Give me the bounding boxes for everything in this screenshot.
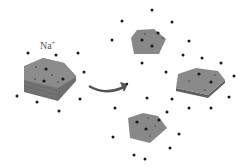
diagram-canvas (0, 0, 250, 167)
sheet-right (176, 68, 225, 98)
curved-arrow-icon (89, 82, 128, 92)
sheet-bottom (128, 113, 167, 143)
layered-stack (24, 58, 76, 101)
sheet-top (131, 29, 166, 54)
sodium-ion-label: Na+ (40, 40, 55, 51)
